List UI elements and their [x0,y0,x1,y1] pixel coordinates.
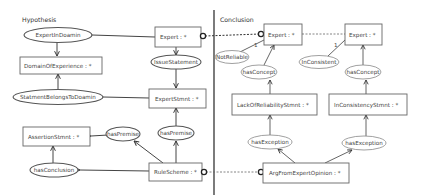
hypothesis-section-label: Hypothesis [22,16,56,24]
node-lack-of-reliability-stmnt[interactable]: LackOfReliabilityStmnt : * [232,94,317,115]
rulescheme-port-icon[interactable] [201,169,206,174]
node-label: InConsistencyStmnt : * [334,102,398,109]
node-label: IssueStatement [154,59,199,65]
node-label: InConsistent [302,59,338,65]
node-label: Expert : * [349,32,376,39]
node-label: StatmentBelongsToDoamin [20,94,96,101]
node-domain-of-experience[interactable]: DomainOfExperience : * [20,57,102,74]
node-conclusion-expert-2[interactable]: Expert : * [345,24,382,45]
node-conclusion-expert-1[interactable]: Expert : * [264,24,302,45]
node-has-concept-1[interactable]: hasConcept [241,65,277,79]
node-statement-belongs-to-domain[interactable]: StatmentBelongsToDoamin [13,90,103,105]
edge-rulescheme-to-haspremise-left [134,141,163,163]
conclusion-section-label: Conclusion [220,16,254,23]
node-arg-from-expert-opinion[interactable]: ArgFromExpertOpinion : * [263,163,349,183]
expert-port-icon[interactable] [200,33,205,38]
node-expert-stmnt[interactable]: ExpertStmnt : * [149,89,206,108]
node-expert[interactable]: Expert : * [155,27,201,47]
node-label: AssertionStmnt : * [28,134,79,140]
conclusion-expert-port-icon[interactable] [258,31,263,36]
edge-rulescheme-to-hasconclusion [80,170,149,171]
edge-hasconcept1-to-expert1 [264,45,274,65]
node-label: hasConcept [346,69,380,76]
node-label: ExpertInDoamin [35,32,81,39]
edge-expertstmnt-to-statement [103,97,149,98]
node-has-concept-2[interactable]: hasConcept [345,65,381,79]
edge-arg-to-hasexception2 [325,150,352,163]
node-issue-statement[interactable]: IssueStatement [151,55,201,69]
node-label: hasConclusion [34,167,75,173]
edge-expert-to-expertindomain [92,35,155,37]
node-label: ArgFromExpertOpinion : * [269,170,341,177]
node-assertion-stmnt[interactable]: AssertionStmnt : * [23,127,90,146]
node-has-conclusion[interactable]: hasConclusion [30,163,78,177]
diagram-canvas: Hypothesis Conclusion 1 1 [0,0,422,195]
dashed-link-expert [205,34,260,36]
node-expert-in-domain[interactable]: ExpertInDoamin [24,28,92,43]
node-label: Expert : * [160,34,187,41]
node-in-consistent[interactable]: InConsistent [299,56,339,69]
node-has-premise-left[interactable]: hasPremise [106,127,140,141]
node-label: hasPremise [160,130,193,136]
node-in-consistency-stmnt[interactable]: InConsistencyStmnt : * [329,94,407,115]
node-label: NotReliable [216,54,249,60]
node-label: LackOfReliabilityStmnt : * [237,102,309,109]
multiplicity-label-2: 1 [334,42,338,48]
node-has-premise-right[interactable]: hasPremise [158,126,194,140]
node-rule-scheme[interactable]: RuleScheme : * [149,163,202,181]
edge-haspremise-to-assertion [91,135,108,136]
node-label: hasPremise [107,131,140,137]
node-has-exception-2[interactable]: hasException [342,136,386,150]
node-label: hasConcept [242,69,276,76]
node-label: Expert : * [268,32,295,39]
node-label: ExpertStmnt : * [155,96,199,103]
edge-notreliable-to-expert1 [240,40,264,52]
node-label: DomainOfExperience : * [24,63,92,70]
node-not-reliable[interactable]: NotReliable [215,51,249,64]
node-label: hasException [345,140,383,147]
node-has-exception-1[interactable]: hasException [248,135,292,149]
multiplicity-label-1: 1 [254,42,258,48]
edge-arg-to-hasexception1 [278,149,295,163]
node-label: RuleScheme : * [154,169,197,175]
node-label: hasException [251,139,289,146]
